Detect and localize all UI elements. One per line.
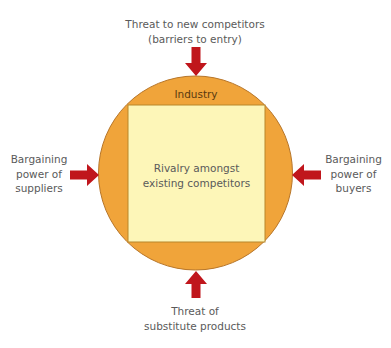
rivalry-label: Rivalry amongst existing competitors (128, 161, 265, 190)
buyer-power-label: Bargaining power of buyers (316, 152, 391, 196)
label-line: (barriers to entry) (95, 32, 295, 47)
arrow-up-icon (185, 271, 207, 298)
label-line: existing competitors (128, 176, 265, 191)
label-line: Rivalry amongst (128, 161, 265, 176)
label-line: Bargaining (0, 152, 78, 167)
threat-substitutes-label: Threat of substitute products (95, 304, 295, 333)
threat-new-entrants-label: Threat to new competitors (barriers to e… (95, 17, 295, 46)
label-line: suppliers (0, 181, 78, 196)
label-line: power of (0, 167, 78, 182)
label-line: buyers (316, 181, 391, 196)
industry-label: Industry (150, 88, 242, 100)
label-line: power of (316, 167, 391, 182)
label-line: Threat of (95, 304, 295, 319)
label-line: Threat to new competitors (95, 17, 295, 32)
label-line: Bargaining (316, 152, 391, 167)
supplier-power-label: Bargaining power of suppliers (0, 152, 78, 196)
label-line: substitute products (95, 319, 295, 334)
arrow-down-icon (185, 47, 207, 76)
